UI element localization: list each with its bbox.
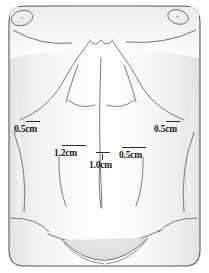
measure-tick-center-left bbox=[62, 145, 86, 146]
measure-label-center-right: 0.5cm bbox=[119, 151, 142, 161]
measure-label-center: 1.0cm bbox=[89, 161, 112, 171]
measure-tick-center-right bbox=[122, 147, 146, 148]
measure-tick-right-flank bbox=[166, 121, 180, 122]
torso-illustration bbox=[0, 0, 209, 273]
torso-measurement-figure: 0.5cm 1.2cm 1.0cm 0.5cm 0.5cm bbox=[0, 0, 209, 273]
measure-label-right-flank: 0.5cm bbox=[154, 125, 177, 135]
measure-label-left-flank: 0.5cm bbox=[14, 125, 37, 135]
torso-body-group bbox=[9, 6, 200, 266]
measure-tick-left-flank bbox=[26, 121, 40, 122]
measure-label-center-left: 1.2cm bbox=[54, 149, 77, 159]
